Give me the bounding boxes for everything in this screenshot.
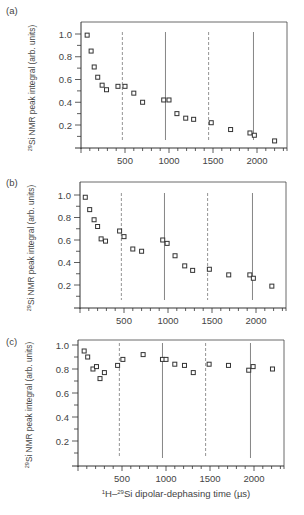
data-point: [96, 75, 100, 79]
data-point: [248, 131, 252, 135]
y-tick-label: 0.2: [59, 120, 72, 131]
data-point: [141, 353, 145, 357]
data-point: [162, 98, 166, 102]
data-point: [161, 238, 165, 242]
x-tick-label: 2000: [243, 473, 264, 484]
plot-frame: [80, 182, 286, 308]
x-tick-label: 1000: [155, 473, 176, 484]
x-tick-label: 500: [117, 155, 133, 166]
data-point: [247, 368, 251, 372]
data-point: [207, 267, 211, 271]
y-tick-label: 0.6: [59, 74, 72, 85]
plot-frame: [78, 340, 284, 466]
data-point: [192, 117, 196, 121]
data-point: [165, 241, 169, 245]
data-point: [122, 235, 126, 239]
data-point: [100, 83, 104, 87]
data-point: [104, 239, 108, 243]
data-point: [173, 362, 177, 366]
y-axis-label: 29Si NMR peak integral (arb. units): [26, 185, 36, 312]
y-tick-label: 1.0: [59, 29, 72, 40]
y-tick-label: 0.4: [58, 257, 71, 268]
y-tick-label: 0.6: [56, 388, 69, 399]
data-point: [184, 116, 188, 120]
data-point: [175, 112, 179, 116]
x-tick-label: 500: [116, 315, 132, 326]
y-tick-label: 0.4: [59, 97, 72, 108]
x-tick-label: 1000: [158, 155, 179, 166]
data-point: [121, 357, 125, 361]
y-tick-label: 0.6: [58, 235, 71, 246]
y-tick-label: 1.0: [58, 190, 71, 201]
data-point: [102, 371, 106, 375]
data-point: [141, 100, 145, 104]
data-point: [132, 91, 136, 95]
data-point: [207, 362, 211, 366]
data-point: [226, 363, 230, 367]
data-point: [94, 365, 98, 369]
y-tick-label: 0.8: [58, 212, 71, 223]
panel-label-a: (a): [6, 5, 18, 16]
data-point: [164, 357, 168, 361]
data-point: [183, 264, 187, 268]
panel-label-b: (b): [6, 177, 18, 188]
data-point: [251, 365, 255, 369]
data-point: [88, 208, 92, 212]
nmr-figure: 0.20.40.60.81.050010001500200029Si NMR p…: [0, 0, 304, 515]
data-point: [182, 363, 186, 367]
data-point: [83, 195, 87, 199]
panel-b: 0.20.40.60.81.050010001500200029Si NMR p…: [26, 182, 286, 326]
data-point: [227, 273, 231, 277]
y-tick-label: 0.8: [59, 51, 72, 62]
data-point: [273, 139, 277, 143]
data-point: [167, 98, 171, 102]
x-axis-label: 1H–29Si dipolar-dephasing time (µs): [102, 488, 251, 499]
data-point: [251, 276, 255, 280]
data-point: [173, 254, 177, 258]
data-point: [123, 84, 127, 88]
x-tick-label: 1500: [199, 473, 220, 484]
y-tick-label: 0.8: [56, 364, 69, 375]
data-point: [191, 268, 195, 272]
data-point: [86, 355, 90, 359]
data-point: [252, 133, 256, 137]
data-point: [191, 371, 195, 375]
x-tick-label: 1500: [202, 155, 223, 166]
y-axis-label: 29Si NMR peak integral (arb. units): [24, 342, 34, 469]
data-point: [85, 33, 89, 37]
data-point: [89, 49, 93, 53]
x-tick-label: 1000: [157, 315, 178, 326]
data-point: [96, 225, 100, 229]
data-point: [105, 88, 109, 92]
y-axis-label: 29Si NMR peak integral (arb. units): [27, 25, 37, 152]
data-point: [140, 249, 144, 253]
x-tick-label: 500: [114, 473, 130, 484]
data-point: [270, 367, 274, 371]
data-point: [92, 218, 96, 222]
y-tick-label: 1.0: [56, 340, 69, 351]
data-point: [116, 363, 120, 367]
panel-label-c: (c): [6, 336, 17, 347]
data-point: [99, 237, 103, 241]
plot-frame: [81, 22, 287, 148]
data-point: [116, 84, 120, 88]
data-point: [82, 349, 86, 353]
data-point: [229, 128, 233, 132]
data-point: [98, 377, 102, 381]
data-point: [131, 247, 135, 251]
data-point: [118, 229, 122, 233]
x-tick-label: 2000: [246, 155, 267, 166]
data-point: [92, 65, 96, 69]
y-tick-label: 0.2: [58, 280, 71, 291]
data-point: [209, 121, 213, 125]
panel-a: 0.20.40.60.81.050010001500200029Si NMR p…: [27, 22, 287, 166]
y-tick-label: 0.2: [56, 436, 69, 447]
y-tick-label: 0.4: [56, 412, 69, 423]
x-tick-label: 2000: [245, 315, 266, 326]
x-tick-label: 1500: [201, 315, 222, 326]
panel-c: 0.20.40.60.81.050010001500200029Si NMR p…: [24, 340, 284, 485]
data-point: [270, 284, 274, 288]
